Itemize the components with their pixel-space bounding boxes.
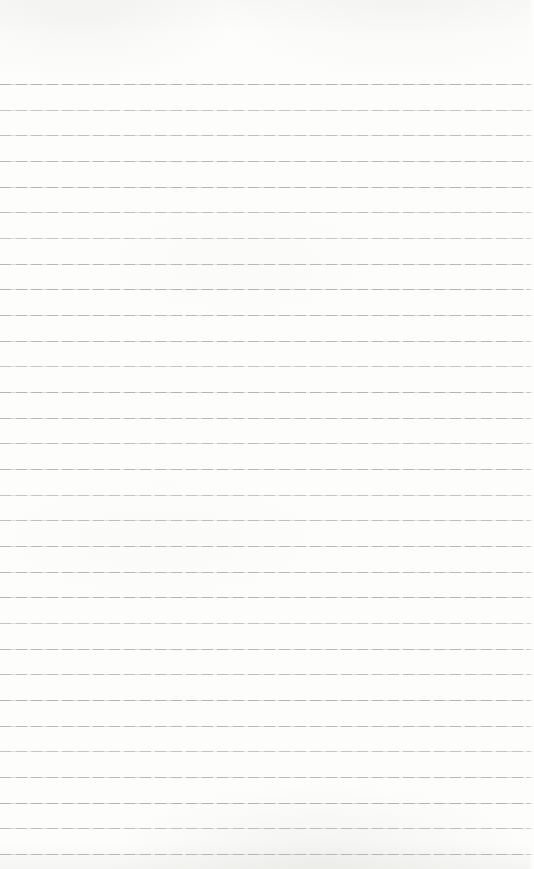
- ruled-line: [0, 700, 534, 701]
- ruled-line: [0, 187, 534, 188]
- ruled-line: [0, 238, 534, 239]
- ruled-line: [0, 443, 534, 444]
- ruled-line: [0, 341, 534, 342]
- ruled-line: [0, 623, 534, 624]
- ruled-line: [0, 803, 534, 804]
- ruled-line: [0, 674, 534, 675]
- ruled-line: [0, 315, 534, 316]
- ruled-line: [0, 392, 534, 393]
- ruled-line: [0, 212, 534, 213]
- ruled-line: [0, 777, 534, 778]
- ruled-line: [0, 546, 534, 547]
- ruled-line: [0, 84, 534, 85]
- ruled-line: [0, 597, 534, 598]
- ruled-line: [0, 751, 534, 752]
- ruled-line: [0, 289, 534, 290]
- ruled-line: [0, 572, 534, 573]
- ruled-line: [0, 366, 534, 367]
- ruled-line: [0, 495, 534, 496]
- ruled-line: [0, 418, 534, 419]
- ruled-line: [0, 726, 534, 727]
- ruled-line: [0, 649, 534, 650]
- ruled-lines: [0, 0, 534, 869]
- ruled-line: [0, 828, 534, 829]
- ruled-line: [0, 854, 534, 855]
- ruled-line: [0, 520, 534, 521]
- ruled-line: [0, 161, 534, 162]
- ruled-line: [0, 135, 534, 136]
- ruled-line: [0, 110, 534, 111]
- notebook-paper-page: [0, 0, 534, 869]
- ruled-line: [0, 264, 534, 265]
- ruled-line: [0, 469, 534, 470]
